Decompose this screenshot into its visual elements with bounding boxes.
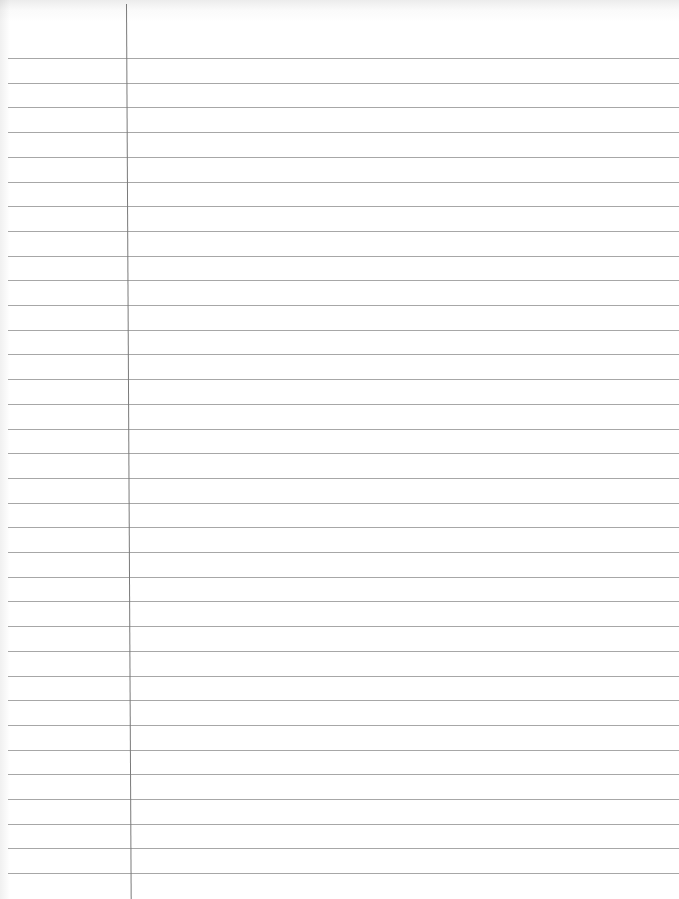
margin-line bbox=[126, 4, 132, 899]
ruled-line bbox=[8, 330, 679, 331]
ruled-line bbox=[8, 774, 679, 775]
ruled-line bbox=[8, 848, 679, 849]
ruled-line bbox=[8, 132, 679, 133]
ruled-line bbox=[8, 750, 679, 751]
ruled-line bbox=[8, 527, 679, 528]
ruled-line bbox=[8, 429, 679, 430]
ruled-line bbox=[8, 676, 679, 677]
ruled-line bbox=[8, 256, 679, 257]
ruled-line bbox=[8, 552, 679, 553]
ruled-line bbox=[8, 107, 679, 108]
ruled-line bbox=[8, 873, 679, 874]
ruled-line bbox=[8, 354, 679, 355]
ruled-line bbox=[8, 824, 679, 825]
ruled-line bbox=[8, 478, 679, 479]
ruled-line bbox=[8, 799, 679, 800]
ruled-line bbox=[8, 651, 679, 652]
ruled-line bbox=[8, 83, 679, 84]
ruled-line bbox=[8, 182, 679, 183]
ruled-line bbox=[8, 379, 679, 380]
ruled-line bbox=[8, 58, 679, 59]
paper-edge-shadow bbox=[0, 0, 10, 899]
ruled-line bbox=[8, 157, 679, 158]
ruled-line bbox=[8, 725, 679, 726]
ruled-line bbox=[8, 503, 679, 504]
ruled-line bbox=[8, 206, 679, 207]
ruled-line bbox=[8, 453, 679, 454]
ruled-line bbox=[8, 404, 679, 405]
ruled-line bbox=[8, 231, 679, 232]
ruled-line bbox=[8, 626, 679, 627]
ruled-line bbox=[8, 280, 679, 281]
lined-paper-sheet bbox=[0, 0, 679, 899]
ruled-line bbox=[8, 700, 679, 701]
ruled-line bbox=[8, 577, 679, 578]
ruled-line bbox=[8, 305, 679, 306]
ruled-line bbox=[8, 601, 679, 602]
